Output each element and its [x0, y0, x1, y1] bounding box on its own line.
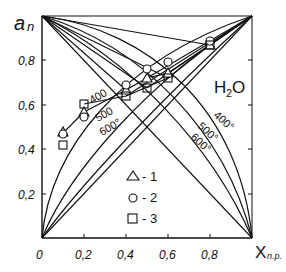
- x-axis-label-sub: n.p.: [267, 251, 282, 261]
- legend: - 1 - 2 - 3: [127, 169, 157, 226]
- svg-text:0,4: 0,4: [117, 248, 134, 262]
- svg-text:0,6: 0,6: [159, 248, 176, 262]
- svg-text:0,2: 0,2: [18, 188, 35, 202]
- svg-text:0,2: 0,2: [75, 248, 92, 262]
- h2o-annotation: H 2 O: [214, 78, 245, 99]
- svg-text:- 1: - 1: [142, 169, 157, 184]
- svg-text:400: 400: [87, 86, 109, 106]
- svg-text:0,4: 0,4: [18, 143, 35, 157]
- y-tick-labels: 0,2 0,4 0,6 0,8: [18, 54, 35, 202]
- legend-circle-icon: [129, 194, 137, 202]
- y-axis-label-sub: n: [27, 19, 34, 34]
- x-tick-labels: 0 0,2 0,4 0,6 0,8: [36, 248, 218, 262]
- svg-text:0,8: 0,8: [201, 248, 218, 262]
- svg-text:H: H: [214, 78, 226, 97]
- legend-square-icon: [128, 214, 137, 223]
- y-axis-label: a: [14, 12, 25, 34]
- svg-text:- 3: - 3: [142, 211, 157, 226]
- legend-triangle-icon: [127, 171, 139, 180]
- svg-text:0,8: 0,8: [18, 54, 35, 68]
- svg-text:0: 0: [36, 248, 43, 262]
- svg-text:- 2: - 2: [142, 190, 157, 205]
- falling-curve-labels: 400° 500° 600°: [189, 109, 237, 155]
- svg-text:0,6: 0,6: [18, 99, 35, 113]
- svg-text:O: O: [232, 78, 245, 97]
- x-axis-label: X: [255, 243, 266, 262]
- chart: a n X n.p. 0 0,2 0,4 0,6 0,8 0,2 0,4 0,6…: [0, 0, 286, 272]
